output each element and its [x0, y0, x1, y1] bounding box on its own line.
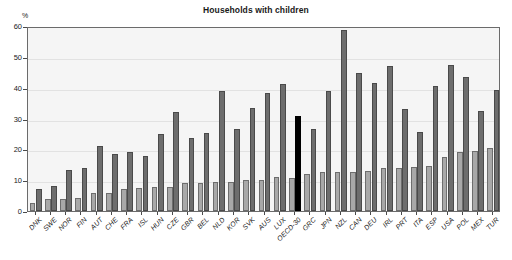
y-tick-mark	[23, 89, 27, 90]
bar-light-aus	[259, 180, 265, 211]
bar-dark-bel	[204, 133, 210, 211]
x-tick-mark	[218, 212, 219, 215]
bar-light-tur	[487, 148, 493, 211]
x-tick-label-svk: SVK	[241, 216, 256, 231]
y-tick-label: 10	[0, 176, 22, 185]
bar-light-nor	[60, 199, 66, 211]
bar-light-cze	[167, 187, 173, 211]
bar-dark-mex	[478, 111, 484, 211]
plot-area	[27, 27, 500, 212]
bar-light-nld	[213, 182, 219, 211]
x-tick-label-prt: PRT	[394, 216, 409, 231]
bar-light-pol	[457, 152, 463, 211]
x-tick-mark	[477, 212, 478, 215]
bar-dark-che	[112, 154, 118, 211]
y-tick-label: 0	[0, 207, 22, 216]
x-tick-mark	[141, 212, 142, 215]
bar-light-deu	[365, 171, 371, 211]
y-tick-label: 40	[0, 84, 22, 93]
bar-dark-svk	[250, 108, 256, 211]
x-tick-mark	[340, 212, 341, 215]
gridline	[28, 59, 499, 60]
y-tick-mark	[23, 120, 27, 121]
y-tick-mark	[23, 181, 27, 182]
x-tick-mark	[386, 212, 387, 215]
bar-dark-tur	[494, 90, 500, 211]
x-tick-mark	[233, 212, 234, 215]
x-tick-mark	[111, 212, 112, 215]
bar-light-bel	[198, 183, 204, 211]
bar-dark-kor	[234, 129, 240, 211]
bar-dark-hun	[158, 134, 164, 211]
x-tick-mark	[50, 212, 51, 215]
bar-dark-swe	[51, 186, 57, 211]
y-tick-label: 50	[0, 53, 22, 62]
x-tick-label-jpn: JPN	[318, 216, 332, 230]
x-tick-mark	[202, 212, 203, 215]
bar-dark-irl	[387, 66, 393, 211]
bar-highlight-oecd-30	[295, 116, 301, 211]
x-tick-mark	[264, 212, 265, 215]
bar-light-dnk	[30, 203, 36, 211]
bar-dark-nzl	[341, 30, 347, 211]
y-tick-mark	[23, 150, 27, 151]
x-tick-mark	[126, 212, 127, 215]
y-tick-label: 20	[0, 145, 22, 154]
y-axis-unit-label: %	[22, 12, 28, 19]
x-tick-label-kor: KOR	[225, 216, 241, 232]
bar-dark-esp	[433, 86, 439, 211]
bar-light-ita	[411, 167, 417, 211]
bar-dark-usa	[448, 65, 454, 211]
x-tick-label-usa: USA	[439, 216, 454, 231]
bar-light-oecd-30	[289, 178, 295, 211]
x-tick-mark	[325, 212, 326, 215]
x-tick-mark	[187, 212, 188, 215]
bar-dark-lux	[280, 84, 286, 211]
x-tick-mark	[492, 212, 493, 215]
x-tick-mark	[462, 212, 463, 215]
x-tick-label-deu: DEU	[363, 216, 378, 231]
x-tick-mark	[355, 212, 356, 215]
bar-dark-can	[356, 73, 362, 211]
bar-light-che	[106, 193, 112, 211]
x-tick-mark	[35, 212, 36, 215]
bar-dark-cze	[173, 112, 179, 211]
y-tick-label: 60	[0, 22, 22, 31]
bar-dark-pol	[463, 77, 469, 211]
x-tick-label-mex: MEX	[469, 216, 485, 232]
bar-dark-fin	[82, 168, 88, 211]
bar-dark-nor	[66, 170, 72, 211]
x-tick-mark	[279, 212, 280, 215]
x-tick-label-hun: HUN	[149, 216, 165, 232]
x-tick-label-esp: ESP	[424, 216, 439, 231]
bar-dark-deu	[372, 83, 378, 211]
x-tick-label-grc: GRC	[301, 216, 317, 232]
x-tick-mark	[248, 212, 249, 215]
x-tick-label-gbr: GBR	[179, 216, 195, 232]
bar-light-aut	[91, 193, 97, 211]
x-tick-label-pol: POL	[455, 216, 470, 231]
x-tick-mark	[172, 212, 173, 215]
x-tick-mark	[96, 212, 97, 215]
x-tick-mark	[294, 212, 295, 215]
bar-dark-fra	[127, 152, 133, 212]
x-tick-label-che: CHE	[103, 216, 118, 231]
x-tick-label-nld: NLD	[211, 216, 226, 231]
x-tick-label-fra: FRA	[119, 216, 134, 231]
bar-light-mex	[472, 151, 478, 211]
x-tick-mark	[370, 212, 371, 215]
x-tick-mark	[447, 212, 448, 215]
x-axis-labels: DNKSWENORFINAUTCHEFRAISLHUNCZEGBRBELNLDK…	[27, 212, 500, 260]
x-tick-mark	[416, 212, 417, 215]
x-tick-label-nor: NOR	[57, 216, 73, 232]
bar-light-hun	[152, 187, 158, 211]
bar-light-fin	[75, 198, 81, 211]
bar-light-lux	[274, 177, 280, 211]
bar-dark-isl	[143, 156, 149, 212]
x-tick-label-isl: ISL	[137, 216, 149, 228]
x-tick-label-bel: BEL	[196, 216, 210, 230]
bar-light-jpn	[320, 172, 326, 211]
bar-light-isl	[136, 188, 142, 211]
bar-dark-gbr	[189, 138, 195, 211]
x-tick-mark	[65, 212, 66, 215]
